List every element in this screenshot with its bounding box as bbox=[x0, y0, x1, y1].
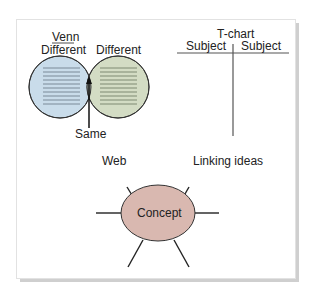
linking-ideas-label: Linking ideas bbox=[193, 155, 263, 167]
concept-label: Concept bbox=[137, 207, 182, 219]
venn-right-label: Different bbox=[96, 44, 141, 56]
tchart-right-header: Subject bbox=[241, 40, 281, 52]
tchart-left-header: Subject bbox=[186, 40, 226, 52]
web-label: Web bbox=[102, 155, 126, 167]
tchart-lines bbox=[177, 44, 289, 136]
venn-left-label: Different bbox=[41, 44, 86, 56]
venn-overlap-label: Same bbox=[75, 128, 106, 140]
venn-title: Venn bbox=[52, 31, 79, 43]
